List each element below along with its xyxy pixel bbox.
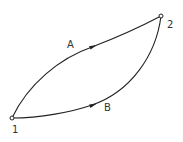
path-a-arrow-icon (89, 45, 97, 50)
path-a-curve (12, 16, 161, 118)
process-diagram: 1 2 A B (0, 0, 183, 142)
path-b-arrow-icon (89, 103, 97, 108)
state-point-2 (159, 14, 163, 18)
point-2-label: 2 (167, 19, 173, 30)
state-point-1 (10, 116, 14, 120)
path-a-label: A (67, 39, 74, 50)
path-b-label: B (104, 102, 111, 113)
path-b-curve (12, 16, 161, 118)
point-1-label: 1 (12, 124, 18, 135)
